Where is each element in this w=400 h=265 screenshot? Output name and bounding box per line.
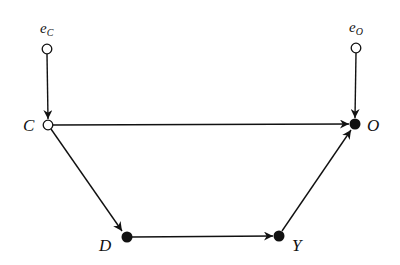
- nodes: [42, 43, 361, 242]
- label-Y: Y: [292, 236, 303, 255]
- label-D: D: [98, 236, 112, 255]
- node-eC: [42, 44, 52, 54]
- label-eO: eO: [349, 19, 363, 37]
- edge-Y-to-O: [282, 130, 351, 231]
- label-C: C: [23, 116, 35, 135]
- edge-eC-to-C: [47, 54, 48, 119]
- causal-diagram: eC eO C O D Y: [0, 0, 400, 265]
- labels: eC eO C O D Y: [23, 19, 379, 255]
- label-O: O: [367, 116, 379, 135]
- node-D: [122, 232, 133, 243]
- edge-C-to-O: [53, 124, 349, 125]
- edge-D-to-Y: [132, 236, 273, 237]
- edges: [47, 53, 356, 237]
- node-C: [43, 120, 53, 130]
- node-O: [350, 119, 361, 130]
- label-eC: eC: [40, 20, 54, 38]
- node-Y: [274, 231, 285, 242]
- edge-eO-to-O: [355, 53, 356, 118]
- edge-C-to-D: [51, 129, 122, 231]
- node-eO: [351, 43, 361, 53]
